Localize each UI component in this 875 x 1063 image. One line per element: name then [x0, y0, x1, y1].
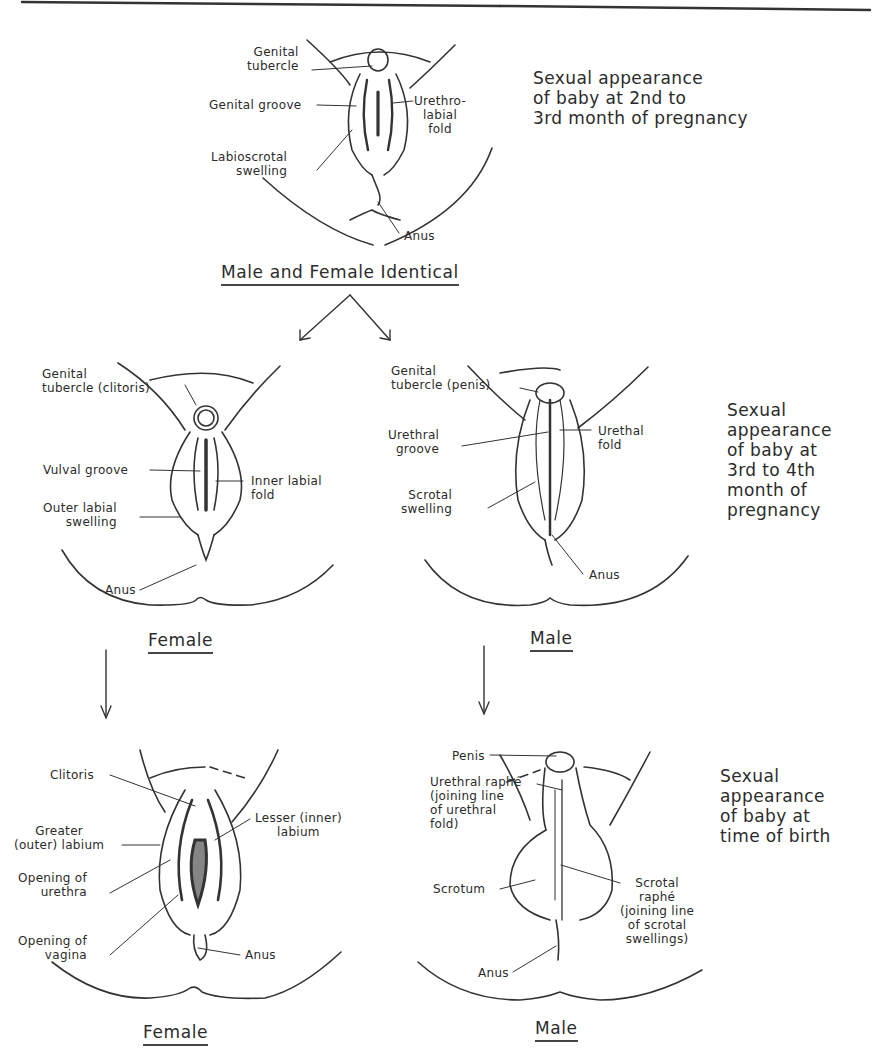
label-genital-groove: Genital groove: [209, 98, 301, 112]
label-anus-male-2: Anus: [589, 568, 620, 582]
label-lesser-labium: Lesser (inner) labium: [255, 811, 342, 839]
label-genital-tubercle: Genital tubercle: [247, 45, 299, 73]
stage2-male-title: Male: [530, 628, 573, 652]
label-urethal-fold: Urethal fold: [598, 424, 644, 452]
label-urethral-raphe: Urethral raphé (joining line of urethral…: [430, 775, 522, 831]
label-urethrolabial-fold: Urethro- labial fold: [414, 94, 466, 136]
label-anus-male-3: Anus: [478, 966, 509, 980]
stage2-caption: Sexual appearance of baby at 3rd to 4th …: [727, 400, 832, 520]
header-rule: [22, 2, 500, 6]
stage3-female-drawing: [52, 750, 341, 998]
label-anus-female-2: Anus: [105, 583, 136, 597]
label-anus-female-3: Anus: [245, 948, 276, 962]
stage2-female-title: Female: [148, 630, 213, 654]
label-labioscrotal-swelling: Labioscrotal swelling: [211, 150, 287, 178]
label-opening-vagina: Opening of vagina: [18, 934, 87, 962]
label-genital-tubercle-clitoris: Genital tubercle (clitoris): [42, 367, 150, 395]
label-outer-labial-swelling: Outer labial swelling: [43, 501, 117, 529]
label-inner-labial-fold: Inner labial fold: [251, 474, 322, 502]
label-clitoris: Clitoris: [50, 768, 94, 782]
label-anus: Anus: [404, 229, 435, 243]
stage2-male-drawing: [425, 366, 688, 605]
stage3-female-title: Female: [143, 1022, 208, 1046]
label-scrotal-raphe: Scrotal raphé (joining line of scrotal s…: [620, 876, 694, 946]
diagram-artwork: [0, 0, 875, 1063]
label-urethral-groove: Urethral groove: [388, 428, 439, 456]
label-scrotum: Scrotum: [433, 882, 485, 896]
label-greater-labium: Greater (outer) labium: [14, 824, 104, 852]
label-vulval-groove: Vulval groove: [43, 463, 128, 477]
stage1-title: Male and Female Identical: [221, 262, 459, 286]
stage3-caption: Sexual appearance of baby at time of bir…: [720, 766, 831, 846]
label-scrotal-swelling: Scrotal swelling: [401, 488, 452, 516]
label-genital-tubercle-penis: Genital tubercle (penis): [391, 364, 490, 392]
label-opening-urethra: Opening of urethra: [18, 871, 87, 899]
label-penis: Penis: [452, 749, 485, 763]
stage3-male-title: Male: [535, 1018, 578, 1042]
stage1-caption: Sexual appearance of baby at 2nd to 3rd …: [533, 68, 748, 128]
